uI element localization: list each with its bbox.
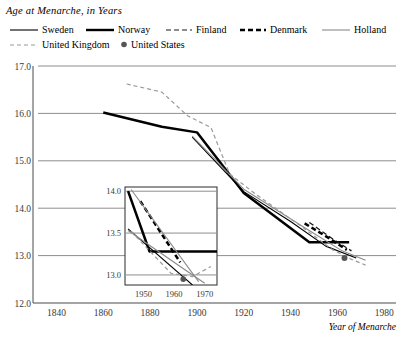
x-tick-label: 1840	[47, 308, 66, 318]
legend-label-sweden: Sweden	[42, 24, 74, 35]
x-tick-label: 1980	[375, 308, 394, 318]
inset-y-axis-ticks: 14.013.513.0	[106, 186, 121, 280]
legend-item-norway: Norway	[86, 24, 150, 35]
legend: Sweden Norway Finland Denmark Holland Un…	[10, 24, 386, 50]
x-tick-label: 1960	[328, 308, 347, 318]
data-point-united-states	[341, 255, 347, 261]
legend-label-norway: Norway	[118, 24, 150, 35]
x-axis-ticks: 18401860188019001920194019601980	[47, 308, 394, 318]
legend-item-sweden: Sweden	[10, 24, 74, 35]
y-axis-ticks: 17.016.015.014.013.012.0	[14, 62, 31, 309]
inset-y-tick-label: 13.0	[106, 270, 121, 280]
y-tick-label: 14.0	[14, 204, 31, 214]
dot-marker-icon	[121, 42, 127, 48]
x-tick-label: 1900	[187, 308, 206, 318]
legend-item-united-kingdom: United Kingdom	[10, 39, 110, 50]
inset-plot: 14.013.513.0 195019601970	[106, 186, 217, 299]
x-tick-label: 1880	[141, 308, 160, 318]
y-tick-label: 12.0	[14, 299, 31, 309]
legend-label-holland: Holland	[354, 24, 386, 35]
legend-label-finland: Finland	[196, 24, 227, 35]
inset-y-tick-label: 13.5	[106, 228, 121, 238]
y-tick-label: 15.0	[14, 156, 31, 166]
legend-label-united-states: United States	[131, 39, 185, 50]
menarche-age-chart: Age at Menarche, in Years Sweden Norway …	[0, 0, 404, 347]
x-tick-label: 1940	[281, 308, 300, 318]
legend-item-holland: Holland	[322, 24, 386, 35]
inset-x-tick-label: 1950	[135, 289, 152, 299]
legend-label-denmark: Denmark	[270, 24, 307, 35]
y-tick-label: 13.0	[14, 251, 31, 261]
inset-x-axis-ticks: 195019601970	[135, 289, 213, 299]
x-tick-label: 1860	[94, 308, 113, 318]
legend-label-united-kingdom: United Kingdom	[42, 39, 110, 50]
chart-title: Age at Menarche, in Years	[5, 5, 122, 16]
x-axis-label: Year of Menarche	[329, 322, 396, 332]
legend-item-denmark: Denmark	[240, 24, 307, 35]
data-point-united-states	[180, 276, 186, 282]
legend-item-finland: Finland	[166, 24, 227, 35]
x-tick-label: 1920	[234, 308, 253, 318]
y-tick-label: 17.0	[14, 62, 31, 72]
inset-x-tick-label: 1960	[166, 289, 183, 299]
inset-y-tick-label: 14.0	[106, 186, 121, 196]
y-tick-label: 16.0	[14, 109, 31, 119]
legend-item-united-states: United States	[121, 39, 185, 50]
inset-x-tick-label: 1970	[196, 289, 213, 299]
